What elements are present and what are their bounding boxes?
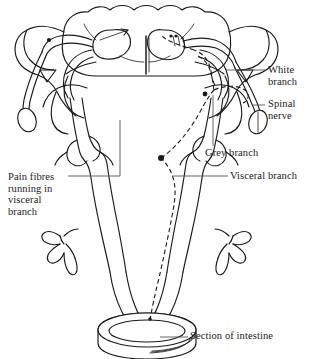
dorsal-root-ganglion-left [47, 38, 51, 42]
white-branch-left [43, 50, 93, 107]
spinal-cord-cross-section [62, 6, 230, 77]
label-visceral-branch: Visceral branch [230, 170, 297, 182]
spinal-nerve-stump-left [15, 106, 40, 134]
figure-container: .ln { fill:none; stroke:#1a1a1a; stroke-… [0, 0, 311, 359]
sympathetic-trunk-right [158, 98, 238, 272]
sympathetic-trunk-left [55, 98, 126, 272]
dorsal-root-ganglion-right [203, 92, 208, 97]
prevertebral-plexus-left [42, 229, 78, 275]
spinal-nerve-left [15, 35, 96, 134]
label-section-of-intestine: Section of intestine [190, 330, 273, 342]
label-grey-branch: Grey branch [205, 147, 258, 159]
leader-lines [68, 70, 265, 337]
label-spinal-nerve: Spinal nerve [268, 98, 295, 121]
receptor-dot-intestine [148, 317, 152, 321]
intestine-section [98, 313, 196, 359]
label-pain-fibres: Pain fibres running in visceral branch [8, 171, 54, 217]
prevertebral-plexus-right [215, 229, 251, 275]
label-white-branch: White branch [268, 64, 297, 87]
